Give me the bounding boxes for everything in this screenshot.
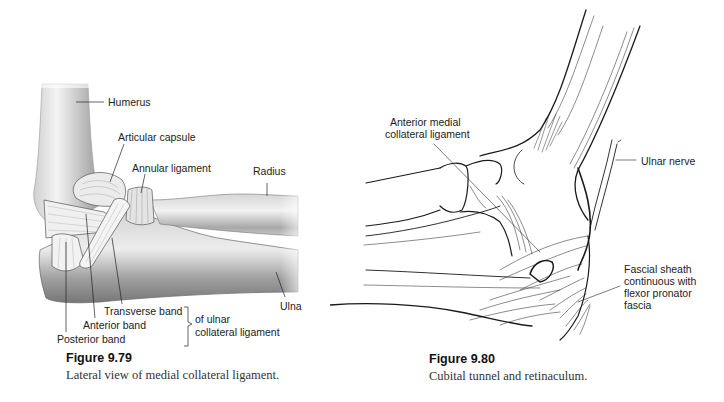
cubital-tunnel-illustration bbox=[330, 0, 724, 402]
label-humerus: Humerus bbox=[108, 96, 151, 108]
figure-9-80: Anterior medial collateral ligament Ulna… bbox=[330, 0, 724, 402]
medial-collateral-ligament-illustration bbox=[0, 0, 330, 402]
figure-caption: Lateral view of medial collateral ligame… bbox=[66, 368, 279, 383]
figure-number: Figure 9.80 bbox=[429, 352, 495, 366]
label-annular-ligament: Annular ligament bbox=[132, 162, 211, 174]
label-ulnar-nerve: Ulnar nerve bbox=[641, 155, 695, 167]
figure-caption: Cubital tunnel and retinaculum. bbox=[429, 369, 587, 384]
label-group-line2: collateral ligament bbox=[195, 326, 280, 338]
figure-number: Figure 9.79 bbox=[66, 351, 132, 365]
label-fascial-line1: Fascial sheath bbox=[624, 263, 692, 275]
label-radius: Radius bbox=[253, 165, 286, 177]
label-group-line1: of ulnar bbox=[195, 313, 230, 325]
label-transverse-band: Transverse band bbox=[104, 305, 182, 317]
label-posterior-band: Posterior band bbox=[57, 333, 125, 345]
figure-9-79: Humerus Articular capsule Annular ligame… bbox=[0, 0, 330, 402]
label-anterior-mcl-line1: Anterior medial bbox=[390, 116, 461, 128]
label-articular-capsule: Articular capsule bbox=[118, 131, 196, 143]
label-fascial-line2: continuous with bbox=[624, 275, 696, 287]
label-anterior-mcl-line2: collateral ligament bbox=[385, 128, 470, 140]
label-anterior-band: Anterior band bbox=[83, 319, 146, 331]
label-fascial-line3: flexor pronator bbox=[624, 287, 692, 299]
label-fascial-line4: fascia bbox=[624, 299, 651, 311]
label-ulna: Ulna bbox=[280, 300, 302, 312]
